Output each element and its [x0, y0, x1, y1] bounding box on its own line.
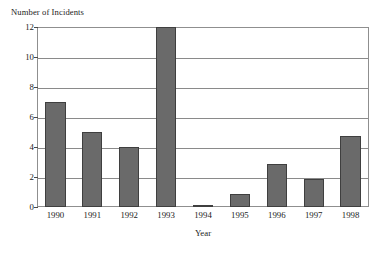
y-axis-tick-label: 12: [4, 23, 34, 32]
bar: [45, 102, 65, 207]
x-axis-tick-label: 1993: [148, 210, 185, 220]
x-axis-tick-label: 1994: [185, 210, 222, 220]
bar-slot: [37, 27, 74, 207]
y-axis-tick-label: 4: [4, 143, 34, 152]
y-axis-title: Number of Incidents: [11, 7, 84, 17]
x-axis-tick-labels: 199019911992199319941995199619971998: [37, 210, 369, 220]
bar-slot: [74, 27, 111, 207]
bar-slot: [148, 27, 185, 207]
x-axis-tick-label: 1997: [295, 210, 332, 220]
x-axis-tick-label: 1998: [332, 210, 369, 220]
bar-slot: [332, 27, 369, 207]
bar-slot: [185, 27, 222, 207]
bar-slot: [111, 27, 148, 207]
bar: [193, 205, 213, 207]
y-axis-tick-label: 2: [4, 173, 34, 182]
bar-chart-figure: Number of Incidents 024681012 1990199119…: [0, 0, 384, 256]
bar: [267, 164, 287, 207]
y-axis-tick-label: 6: [4, 113, 34, 122]
x-axis-tick-label: 1991: [74, 210, 111, 220]
bar: [230, 194, 250, 208]
bar: [119, 147, 139, 207]
x-axis-title: Year: [37, 228, 369, 238]
bar-slot: [295, 27, 332, 207]
y-axis-ticks: 024681012: [0, 27, 34, 207]
y-axis-tick-mark: [34, 207, 38, 208]
x-axis-tick-label: 1990: [37, 210, 74, 220]
y-axis-tick-label: 0: [4, 203, 34, 212]
bar-series: [37, 27, 369, 207]
x-axis-tick-label: 1995: [221, 210, 258, 220]
bar: [304, 179, 324, 207]
bar-slot: [221, 27, 258, 207]
y-axis-tick-label: 10: [4, 53, 34, 62]
bar: [82, 132, 102, 207]
bar: [156, 27, 176, 207]
bar-slot: [258, 27, 295, 207]
y-axis-tick-label: 8: [4, 83, 34, 92]
bar: [340, 136, 360, 207]
x-axis-tick-label: 1992: [111, 210, 148, 220]
x-axis-tick-label: 1996: [258, 210, 295, 220]
